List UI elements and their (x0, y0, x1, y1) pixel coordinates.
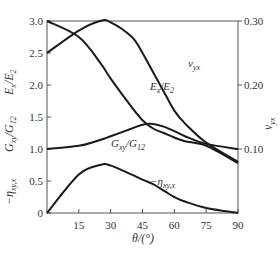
plot-area-border (47, 21, 238, 213)
curve-label-ex-e2: Ex/E2 (149, 80, 174, 95)
y-right-tick-label: 0.10 (244, 143, 264, 155)
x-axis-ticks: 153045607590 (73, 209, 244, 231)
plot-frame (47, 21, 238, 213)
curves (47, 20, 238, 213)
y-left-tick-label: 3.0 (29, 15, 43, 27)
x-tick-label: 60 (169, 219, 181, 231)
curve-nu-yx (47, 20, 238, 162)
y-left-tick-label: 2.0 (29, 79, 43, 91)
x-tick-label: 75 (201, 219, 213, 231)
y-left-tick-label: 1.0 (29, 143, 43, 155)
curve-label-gxy-g12: Gxy/G12 (111, 137, 145, 152)
y-left-tick-label: 1.5 (29, 111, 43, 123)
x-tick-label: 90 (233, 219, 245, 231)
y-axis-left-title-ex-e2: Ex/E2 (2, 69, 18, 96)
curve-eta (47, 164, 238, 213)
curve-label-nu-yx: νyx (188, 57, 200, 72)
chart: 153045607590 00.51.01.52.02.53.0 0.100.2… (0, 0, 280, 255)
x-tick-label: 30 (105, 219, 117, 231)
curve-ex-e2 (47, 21, 238, 163)
curve-label-eta: −ηxy,x (150, 175, 176, 190)
y-axis-left-title-eta: −ηxy,x (2, 178, 18, 205)
y-axis-left-ticks: 00.51.01.52.02.53.0 (29, 15, 51, 219)
x-axis-title: θ/(°) (132, 231, 154, 245)
y-axis-left-title-gxy-g12: Gxy/G12 (2, 116, 18, 152)
y-left-tick-label: 0 (38, 207, 44, 219)
y-left-tick-label: 0.5 (29, 175, 43, 187)
y-left-tick-label: 2.5 (29, 47, 43, 59)
x-tick-label: 15 (73, 219, 85, 231)
x-tick-label: 45 (137, 219, 149, 231)
y-right-tick-label: 0.20 (244, 79, 264, 91)
y-axis-right-ticks: 0.100.200.30 (238, 15, 264, 155)
y-axis-right-title-nu: νyx (261, 117, 277, 130)
y-right-tick-label: 0.30 (244, 15, 264, 27)
